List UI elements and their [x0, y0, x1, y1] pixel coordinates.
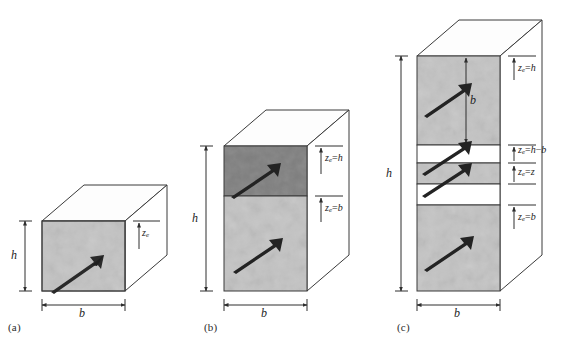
panel-caption-a: (a) — [8, 321, 21, 333]
panel-caption-b: (b) — [204, 321, 217, 333]
ze-hb-label-c: ze=h−b — [518, 145, 546, 156]
ze-b-label-b: ze=b — [325, 203, 343, 214]
figure-canvas: h b ze (a) h b ze=h ze=b (b) h b b ze=h … — [0, 0, 578, 348]
height-label-b: h — [192, 211, 198, 226]
ze-b-label-c: ze=b — [518, 212, 536, 223]
width-label-a: b — [79, 306, 85, 321]
ze-label-a: ze — [142, 228, 149, 239]
dimension-height-c — [395, 56, 408, 291]
height-label-a: h — [11, 248, 17, 263]
inner-b-label-c: b — [470, 93, 476, 108]
width-label-c: b — [454, 306, 460, 321]
panel-b-solid — [224, 110, 349, 291]
panel-caption-c: (c) — [397, 321, 410, 333]
height-label-c: h — [386, 166, 392, 181]
three-panel-building-diagram — [0, 0, 578, 348]
dimension-height-a — [19, 221, 32, 291]
width-label-b: b — [261, 306, 267, 321]
ze-z-label-c: ze=z — [518, 167, 535, 178]
ze-h-label-b: ze=h — [325, 153, 343, 164]
ze-h-label-c: ze=h — [518, 63, 536, 74]
dimension-height-b — [200, 146, 213, 291]
panel-a-solid — [42, 185, 167, 294]
